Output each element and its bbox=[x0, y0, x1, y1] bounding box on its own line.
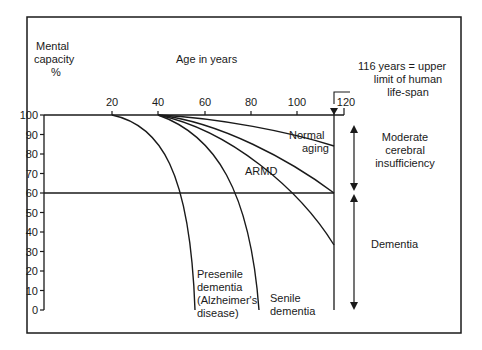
x-tick-label: 20 bbox=[97, 96, 127, 108]
y-axis-title-line1: Mental bbox=[36, 40, 69, 52]
y-tick-label: 30 bbox=[8, 246, 38, 258]
arrow-up-icon bbox=[350, 125, 358, 133]
label-dementia: Dementia bbox=[371, 238, 418, 250]
x-tick-label: 80 bbox=[236, 96, 266, 108]
label-senile-line2: dementia bbox=[270, 305, 315, 317]
arrow-up-icon bbox=[350, 194, 358, 202]
y-tick-label: 0 bbox=[8, 304, 38, 316]
y-tick-label: 10 bbox=[8, 285, 38, 297]
y-tick-label: 90 bbox=[8, 129, 38, 141]
curve-presenile-dementia bbox=[112, 115, 195, 310]
label-normal-aging-line2: aging bbox=[302, 142, 329, 154]
label-moderate-line3: insufficiency bbox=[362, 157, 448, 169]
y-tick-label: 70 bbox=[8, 168, 38, 180]
label-moderate-line1: Moderate bbox=[362, 131, 448, 143]
chart-figure: Mental capacity % 100 90 80 70 60 50 40 … bbox=[0, 0, 482, 350]
arrow-down-icon bbox=[350, 302, 358, 310]
y-tick-label: 20 bbox=[8, 265, 38, 277]
label-moderate-line2: cerebral bbox=[362, 144, 448, 156]
lifespan-note-line3: life-span bbox=[368, 86, 448, 98]
x-axis-title: Age in years bbox=[176, 53, 237, 65]
y-axis-title-line2: capacity bbox=[34, 53, 74, 65]
y-tick-label: 100 bbox=[8, 109, 38, 121]
x-tick-label: 100 bbox=[282, 96, 312, 108]
y-tick-label: 80 bbox=[8, 148, 38, 160]
x-tick-label: 120 bbox=[331, 96, 361, 108]
label-normal-aging-line1: Normal bbox=[289, 129, 324, 141]
arrow-down-icon bbox=[350, 183, 358, 191]
x-axis-ticks bbox=[112, 108, 344, 115]
label-presenile-line2: dementia bbox=[197, 281, 242, 293]
lifespan-note-line1: 116 years = upper bbox=[358, 60, 446, 72]
lifespan-arrow-icon bbox=[330, 108, 338, 115]
y-tick-label: 60 bbox=[8, 187, 38, 199]
label-senile-line1: Senile bbox=[270, 292, 301, 304]
y-axis-title-line3: % bbox=[51, 66, 61, 78]
lifespan-note-line2: limit of human bbox=[368, 73, 448, 85]
label-presenile-line4: disease) bbox=[197, 307, 239, 319]
x-tick-label: 60 bbox=[190, 96, 220, 108]
y-tick-label: 50 bbox=[8, 207, 38, 219]
y-tick-label: 40 bbox=[8, 226, 38, 238]
label-presenile-line3: (Alzheimer's bbox=[197, 294, 257, 306]
label-presenile-line1: Presenile bbox=[197, 268, 243, 280]
label-armd: ARMD bbox=[245, 165, 277, 177]
x-tick-label: 40 bbox=[143, 96, 173, 108]
